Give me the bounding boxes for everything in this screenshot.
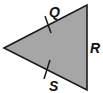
label-s: S bbox=[49, 78, 59, 93]
triangle-diagram: Q R S bbox=[0, 0, 103, 93]
label-q: Q bbox=[49, 4, 60, 20]
label-r: R bbox=[90, 40, 101, 56]
